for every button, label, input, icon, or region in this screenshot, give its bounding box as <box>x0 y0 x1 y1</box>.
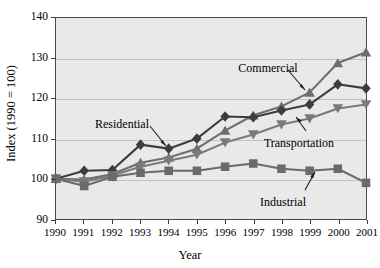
x-tick-mark <box>254 220 255 224</box>
x-tick-mark <box>310 220 311 224</box>
y-tick-label: 120 <box>18 92 48 104</box>
y-tick-label: 100 <box>18 173 48 185</box>
x-tick-mark <box>339 220 340 224</box>
series-residential-marker <box>361 83 370 94</box>
x-tick-mark <box>367 220 368 224</box>
series-industrial-marker <box>193 167 202 176</box>
x-tick-mark <box>83 220 84 224</box>
y-axis-title: Index (1990 = 100) <box>4 39 19 189</box>
series-commercial-marker <box>332 58 343 67</box>
series-residential-marker <box>79 165 88 176</box>
y-tick-mark <box>51 139 56 140</box>
series-industrial-marker <box>108 173 117 182</box>
series-industrial-marker <box>305 167 314 176</box>
y-tick-mark <box>51 17 56 18</box>
series-line-industrial <box>56 164 366 187</box>
annotation-industrial: Industrial <box>260 196 306 208</box>
y-tick-mark <box>51 179 56 180</box>
series-industrial-marker <box>164 167 173 176</box>
y-tick-label: 110 <box>18 133 48 145</box>
series-commercial-marker <box>361 47 372 56</box>
x-tick-mark <box>225 220 226 224</box>
series-industrial-marker <box>221 162 230 171</box>
series-industrial-marker <box>277 164 286 173</box>
line-chart: 90100110120130140 1990199119921993199419… <box>0 0 380 268</box>
series-transportation-marker <box>220 138 231 147</box>
series-industrial-marker <box>136 169 145 178</box>
series-industrial-marker <box>249 159 258 168</box>
x-tick-mark <box>112 220 113 224</box>
series-commercial-marker <box>220 126 231 135</box>
series-industrial-marker <box>80 182 89 191</box>
annotation-commercial: Commercial <box>238 62 297 74</box>
x-tick-mark <box>168 220 169 224</box>
y-tick-mark <box>51 98 56 99</box>
x-tick-mark <box>197 220 198 224</box>
series-industrial-marker <box>362 179 371 188</box>
x-tick-label: 2001 <box>350 227 380 238</box>
y-tick-label: 140 <box>18 11 48 23</box>
x-tick-mark <box>282 220 283 224</box>
series-industrial-marker <box>334 164 343 173</box>
series-residential-marker <box>333 79 342 90</box>
x-tick-mark <box>55 220 56 224</box>
x-axis-title: Year <box>0 248 380 263</box>
y-tick-mark <box>51 58 56 59</box>
series-residential-marker <box>305 99 314 110</box>
x-tick-mark <box>140 220 141 224</box>
annotation-transportation: Transportation <box>264 137 334 149</box>
y-tick-label: 130 <box>18 52 48 64</box>
series-line-residential <box>56 84 366 178</box>
y-tick-label: 90 <box>18 214 48 226</box>
annotation-residential: Residential <box>95 118 149 130</box>
series-residential-marker <box>164 143 173 154</box>
